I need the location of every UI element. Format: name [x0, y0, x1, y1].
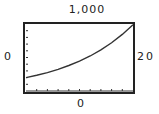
data-curve [26, 25, 133, 78]
plot-frame [24, 23, 134, 93]
plot-area [0, 0, 159, 114]
